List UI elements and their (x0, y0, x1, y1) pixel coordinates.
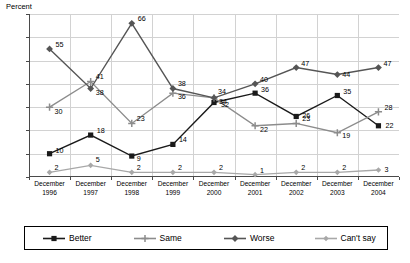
data-point-marker (293, 170, 299, 176)
legend-marker-better (43, 234, 65, 243)
data-label: 36 (261, 87, 269, 94)
data-label: 1 (260, 167, 264, 174)
data-label: 47 (383, 60, 391, 67)
data-label: 44 (342, 71, 350, 78)
data-label: 5 (96, 157, 100, 164)
data-point-marker (335, 93, 340, 98)
data-point-marker (335, 170, 341, 176)
data-point-marker (294, 114, 299, 119)
data-label: 9 (137, 155, 141, 162)
legend-marker-same (134, 234, 156, 243)
data-point-marker (128, 20, 135, 27)
data-point-marker (376, 123, 381, 128)
line-chart: Percent 010203040506070 1018914323626352… (0, 0, 410, 263)
data-label: 2 (178, 165, 182, 172)
data-label: 47 (301, 60, 309, 67)
data-point-marker (169, 85, 176, 92)
data-point-marker (46, 104, 53, 111)
data-label: 19 (342, 132, 350, 139)
data-point-marker (47, 151, 52, 156)
data-label: 38 (96, 89, 104, 96)
data-point-marker (51, 235, 56, 240)
data-point-marker (170, 142, 175, 147)
data-label: 38 (178, 80, 186, 87)
data-point-marker (323, 235, 329, 241)
data-point-marker (232, 235, 239, 242)
data-point-marker (88, 163, 94, 169)
data-point-marker (375, 108, 382, 115)
data-label: 22 (260, 126, 268, 133)
chart-legend: Better Same Worse Can't say (24, 226, 388, 250)
data-label: 34 (219, 98, 227, 105)
x-tick-label: December2004 (352, 180, 404, 197)
data-point-marker (47, 170, 53, 176)
data-point-marker (211, 170, 217, 176)
legend-item-cant-say[interactable]: Can't say (297, 233, 388, 243)
legend-marker-worse (224, 234, 246, 243)
data-label: 2 (137, 165, 141, 172)
data-label: 23 (137, 116, 145, 123)
data-label: 10 (56, 147, 64, 154)
data-label: 2 (301, 165, 305, 172)
series-line (50, 23, 379, 98)
data-point-marker (129, 153, 134, 158)
data-point-marker (252, 80, 259, 87)
data-point-marker (141, 234, 148, 241)
legend-label-worse: Worse (250, 233, 274, 243)
legend-item-better[interactable]: Better (25, 233, 116, 243)
legend-marker-cant-say (315, 234, 337, 243)
legend-label-cant-say: Can't say (341, 233, 376, 243)
data-point-marker (334, 71, 341, 78)
legend-label-better: Better (69, 233, 92, 243)
legend-item-worse[interactable]: Worse (206, 233, 297, 243)
data-point-marker (293, 64, 300, 71)
data-point-marker (375, 64, 382, 71)
data-label: 2 (219, 165, 223, 172)
data-label: 41 (96, 73, 104, 80)
data-point-marker (334, 129, 341, 136)
x-axis-tick-labels: December1996December1997December1998Dece… (29, 180, 399, 204)
data-label: 55 (56, 41, 64, 48)
data-label: 2 (55, 165, 59, 172)
data-label: 34 (218, 88, 226, 95)
data-label: 22 (385, 122, 393, 129)
data-point-marker (88, 132, 93, 137)
data-point-marker (252, 172, 258, 178)
plot-area: 010203040506070 101891432362635223041233… (29, 14, 399, 177)
data-label: 30 (55, 109, 63, 116)
data-label: 23 (302, 116, 310, 123)
data-label: 66 (138, 16, 146, 23)
data-label: 35 (343, 88, 351, 95)
y-axis-title: Percent (6, 2, 32, 11)
data-label: 14 (179, 137, 187, 144)
data-point-marker (376, 167, 382, 173)
data-label: 36 (178, 94, 186, 101)
data-label: 28 (384, 104, 392, 111)
legend-label-same: Same (160, 233, 182, 243)
data-point-marker (129, 170, 135, 176)
data-label: 40 (260, 76, 268, 83)
data-point-marker (293, 120, 300, 127)
data-label: 18 (97, 127, 105, 134)
data-label: 3 (384, 166, 388, 173)
legend-item-same[interactable]: Same (116, 233, 207, 243)
data-point-marker (253, 91, 258, 96)
data-point-marker (170, 170, 176, 176)
data-label: 2 (342, 165, 346, 172)
